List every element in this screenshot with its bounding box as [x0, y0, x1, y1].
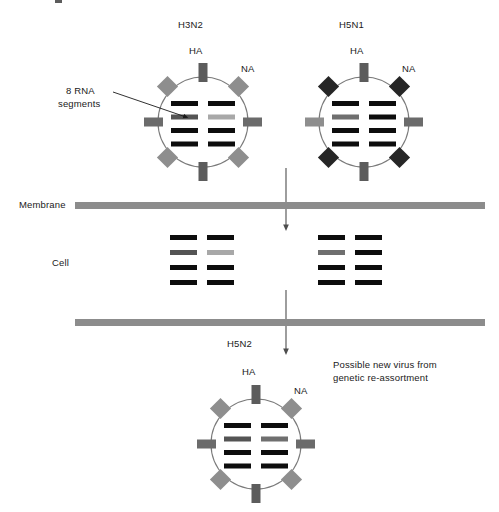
virion-h5n2: [197, 385, 315, 503]
label-virus-h5n2: H5N2: [227, 338, 252, 351]
label-cell: Cell: [52, 257, 69, 270]
label-na-h5n1: NA: [402, 63, 416, 76]
virion-envelope: [158, 77, 248, 167]
na-spike-bottom-right: [389, 147, 410, 168]
na-spike-bottom-left: [210, 469, 231, 490]
ha-spike-top: [252, 385, 261, 404]
label-virus-h3n2: H3N2: [178, 19, 203, 32]
label-outcome-line1: Possible new virus from: [333, 359, 437, 372]
virion-envelope: [211, 399, 301, 489]
label-ha-h3n2: HA: [189, 45, 203, 58]
label-ha-h5n2: HA: [242, 366, 256, 379]
cropped-title-fragment: [55, 0, 62, 3]
cell-rna-group-right: [318, 235, 382, 285]
na-spike-top-left: [210, 398, 231, 419]
na-spike-bottom-right: [228, 147, 249, 168]
na-spike-top-left: [157, 76, 178, 97]
ha-spike-right: [404, 118, 423, 127]
label-rna-callout-line2: segments: [58, 98, 100, 111]
ha-spike-left: [305, 118, 324, 127]
rna-segments: [224, 423, 288, 469]
label-virus-h5n1: H5N1: [339, 19, 364, 32]
label-ha-h5n1: HA: [350, 45, 364, 58]
ha-spike-left: [197, 440, 216, 449]
diagram-graphics-layer: [0, 0, 499, 512]
arrow-rna-callout: [113, 92, 186, 117]
na-spike-bottom-left: [157, 147, 178, 168]
na-spike-bottom-right: [281, 469, 302, 490]
na-spike-top-right: [228, 76, 249, 97]
label-membrane: Membrane: [19, 199, 66, 212]
membrane-upper: [75, 202, 485, 209]
na-spike-bottom-left: [318, 147, 339, 168]
ha-spike-bottom: [360, 162, 369, 181]
label-na-h5n2: NA: [294, 385, 308, 398]
ha-spike-bottom: [199, 162, 208, 181]
virus-reassortment-diagram: H3N2 H5N1 HA NA HA NA 8 RNA segments Mem…: [0, 0, 499, 512]
virion-h3n2: [144, 63, 262, 181]
label-rna-callout-line1: 8 RNA: [66, 85, 95, 98]
label-na-h3n2: NA: [241, 63, 255, 76]
ha-spike-right: [243, 118, 262, 127]
ha-spike-bottom: [252, 484, 261, 503]
na-spike-top-right: [281, 398, 302, 419]
ha-spike-top: [199, 63, 208, 82]
virion-h5n1: [305, 63, 423, 181]
rna-segments: [171, 101, 235, 147]
rna-segments: [332, 101, 396, 147]
ha-spike-right: [296, 440, 315, 449]
cell-rna-group-left: [170, 235, 234, 285]
na-spike-top-right: [389, 76, 410, 97]
label-outcome-line2: genetic re-assortment: [333, 372, 428, 385]
membrane-lower: [75, 319, 485, 326]
ha-spike-left: [144, 118, 163, 127]
ha-spike-top: [360, 63, 369, 82]
virion-envelope: [319, 77, 409, 167]
na-spike-top-left: [318, 76, 339, 97]
